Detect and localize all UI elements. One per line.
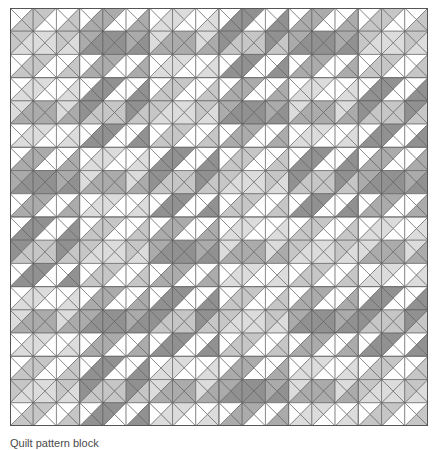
page-root: Quilt pattern block xyxy=(0,0,438,450)
figure-caption: Quilt pattern block xyxy=(10,437,430,450)
quilt-figure: Quilt pattern block xyxy=(0,0,438,450)
quilt-pattern-canvas xyxy=(10,8,428,426)
